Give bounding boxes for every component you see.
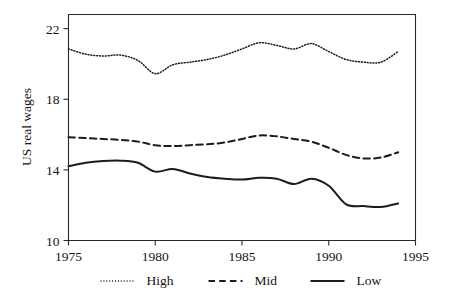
chart-page: 10141822 19751980198519901995 US real wa… bbox=[0, 0, 449, 306]
y-tick-label: 22 bbox=[46, 22, 60, 37]
x-tick-label: 1980 bbox=[142, 249, 169, 264]
line-chart: 10141822 19751980198519901995 US real wa… bbox=[0, 0, 449, 306]
series-line-low bbox=[69, 161, 399, 207]
x-tick-label: 1995 bbox=[402, 249, 429, 264]
x-axis-ticks: 19751980198519901995 bbox=[55, 241, 429, 264]
y-axis-title: US real wages bbox=[19, 88, 34, 166]
data-series-group bbox=[69, 43, 399, 207]
series-line-high bbox=[69, 43, 399, 74]
y-tick-label: 14 bbox=[46, 163, 60, 178]
legend-label-low: Low bbox=[357, 273, 382, 288]
y-tick-label: 10 bbox=[46, 234, 60, 249]
x-tick-label: 1990 bbox=[315, 249, 342, 264]
x-tick-label: 1975 bbox=[55, 249, 82, 264]
y-axis-ticks: 10141822 bbox=[46, 22, 69, 249]
y-tick-label: 18 bbox=[46, 92, 60, 107]
series-line-mid bbox=[69, 135, 399, 158]
chart-legend: HighMidLow bbox=[101, 273, 382, 288]
legend-label-high: High bbox=[147, 273, 174, 288]
legend-item-mid[interactable]: Mid bbox=[209, 273, 278, 288]
legend-label-mid: Mid bbox=[255, 273, 278, 288]
legend-item-high[interactable]: High bbox=[101, 273, 174, 288]
x-tick-label: 1985 bbox=[229, 249, 256, 264]
legend-item-low[interactable]: Low bbox=[311, 273, 382, 288]
